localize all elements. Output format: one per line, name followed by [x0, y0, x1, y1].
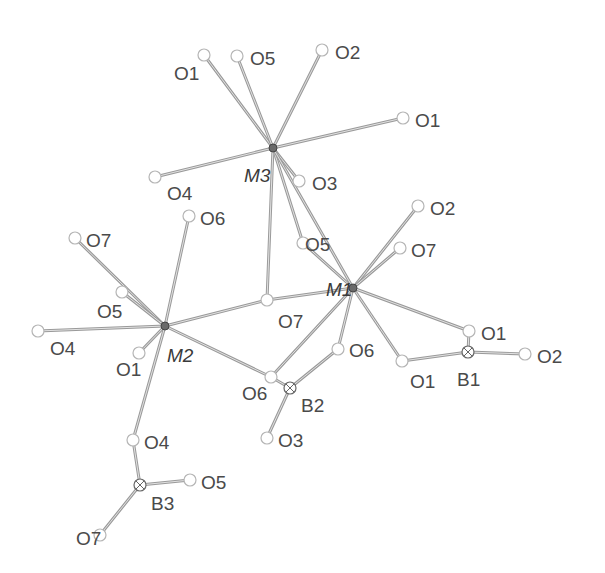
- atom-b1: [462, 346, 474, 358]
- atom-m2: [161, 322, 169, 330]
- atom-label: O5: [305, 234, 330, 255]
- atom-m3-o5: [231, 50, 243, 62]
- atom-m3: [269, 144, 277, 152]
- bond-B1-M1_O1b: [402, 352, 468, 361]
- atom-label: M3: [244, 165, 271, 186]
- bond-B1-B1_O2: [468, 352, 525, 354]
- atom-b3-o4: [127, 434, 139, 446]
- atom-m2-o7: [69, 232, 81, 244]
- bond-M3-M3_O2: [273, 50, 322, 148]
- atom-label: O1: [415, 110, 440, 131]
- atom-o7-bridge: [261, 294, 273, 306]
- atom-m3-o2: [316, 44, 328, 56]
- bond-B3-B3_O7: [100, 485, 140, 535]
- atom-label: O3: [312, 173, 337, 194]
- atom-label: O1: [481, 323, 506, 344]
- atom-m3-o4: [149, 171, 161, 183]
- atom-m3-o1a: [198, 49, 210, 61]
- atom-m2-o6: [183, 210, 195, 222]
- atom-label: O1: [116, 359, 141, 380]
- atom-label: O6: [349, 340, 374, 361]
- atom-m2-o4: [32, 325, 44, 337]
- atom-label: O4: [167, 183, 193, 204]
- atom-m1-o7: [394, 242, 406, 254]
- atom-label: O5: [97, 301, 122, 322]
- atom-label: O1: [174, 63, 199, 84]
- bond-M3-M3_O1b: [273, 118, 403, 148]
- atom-label: B1: [457, 369, 480, 390]
- atom-label: M2: [167, 345, 194, 366]
- bond-M2-M2_O4: [38, 326, 165, 331]
- atom-b3-o5: [184, 474, 196, 486]
- atoms-layer: [32, 44, 531, 541]
- atom-label: O5: [250, 48, 275, 69]
- atom-o6-lower: [265, 371, 277, 383]
- bonds-layer: [38, 50, 525, 535]
- bond-M2-M2_O6: [165, 216, 189, 326]
- atom-m1-o6: [332, 343, 344, 355]
- atom-label: M1: [326, 279, 352, 300]
- atom-label: O4: [50, 338, 76, 359]
- atom-b1-o2: [519, 348, 531, 360]
- bond-M2-O7_bridge: [165, 300, 267, 326]
- atom-label: O2: [335, 42, 360, 63]
- bond-M1-M1_O7: [353, 248, 400, 288]
- bond-B2-M1_O6: [290, 349, 338, 388]
- atom-label: O7: [278, 311, 303, 332]
- bond-M3-M1: [273, 148, 353, 288]
- atom-label: O7: [411, 240, 436, 261]
- atom-m2-o1: [133, 347, 145, 359]
- bond-B3-B3_O5: [140, 480, 190, 485]
- atom-label: O5: [201, 472, 226, 493]
- atom-label: O3: [278, 430, 303, 451]
- atom-label: O7: [86, 230, 111, 251]
- atom-label: B2: [301, 395, 324, 416]
- atom-label: B3: [151, 493, 174, 514]
- atom-m1-o2: [412, 200, 424, 212]
- atom-label: O1: [410, 371, 435, 392]
- atom-b2-o3: [261, 432, 273, 444]
- bond-M2-M2_O5: [122, 292, 165, 326]
- atom-label: O6: [200, 208, 225, 229]
- bond-M3-M3_O5: [237, 56, 273, 148]
- atom-b3: [134, 479, 146, 491]
- atom-label: O4: [144, 432, 170, 453]
- atom-label: O2: [537, 346, 562, 367]
- atom-label: O6: [242, 383, 267, 404]
- molecular-structure-diagram: M3M1M2B1B2B3O1O5O2O1O4O3O5O2O7O7O6O1O1O2…: [0, 0, 605, 573]
- atom-label: O2: [430, 198, 455, 219]
- atom-m3-o3: [293, 175, 305, 187]
- atom-m1-o1a: [463, 325, 475, 337]
- atom-m3-o1b: [397, 112, 409, 124]
- atom-m1-o1b: [396, 355, 408, 367]
- atom-m2-o5: [116, 286, 128, 298]
- bond-M1-M1_O1a: [353, 288, 469, 331]
- atom-b2: [284, 382, 296, 394]
- bond-M1-M1_O2: [353, 206, 418, 288]
- bond-B3-B3_O4: [133, 440, 140, 485]
- atom-label: O7: [76, 528, 101, 549]
